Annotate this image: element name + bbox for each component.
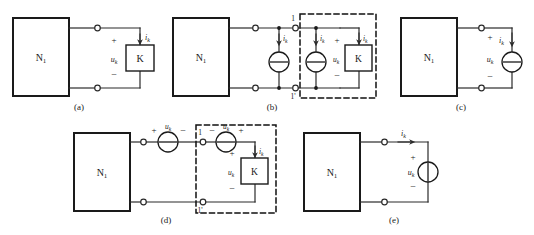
terminal-d-1: [200, 139, 206, 145]
panel-a: N1 K ik + − uk (a): [13, 18, 154, 112]
voltage-label-b: uk: [333, 55, 340, 65]
terminal-label-b-1prime: 1': [290, 92, 296, 101]
terminal-label-b-1: 1: [291, 14, 295, 23]
terminal-c-bottom: [479, 85, 485, 91]
current-label-c: ik: [499, 36, 504, 46]
current-label-d: ik: [259, 147, 264, 157]
terminal-e-top: [382, 139, 388, 145]
voltage-label-c: uk: [487, 55, 494, 65]
node-b-top-1: [277, 26, 281, 30]
polarity-plus-c2: +: [487, 32, 492, 42]
polarity-minus-b: −: [334, 70, 340, 81]
node-b-top-2: [314, 26, 318, 30]
voltage-label-d: uk: [228, 168, 235, 178]
terminal-d-top: [141, 139, 147, 145]
voltage-label-d2: uk: [223, 122, 230, 132]
node-b-bottom-2: [314, 86, 318, 90]
current-label-b-k: ik: [363, 34, 368, 44]
terminal-b-1: [293, 25, 299, 31]
circuit-figure: N1 K ik + − uk (a) N1: [0, 0, 534, 235]
terminal-a-bottom: [95, 85, 101, 91]
caption-c: (c): [456, 102, 466, 112]
caption-d: (d): [161, 215, 172, 225]
current-label-b1: ik: [283, 34, 288, 44]
polarity-minus-e: −: [410, 181, 416, 192]
terminal-b-top: [253, 25, 259, 31]
node-b-bottom-1: [277, 86, 281, 90]
element-label-k-a: K: [136, 53, 144, 64]
voltage-label-d1: uk: [165, 122, 172, 132]
polarity-minus-d1: −: [180, 125, 186, 136]
polarity-minus-d: −: [229, 183, 235, 194]
polarity-plus-e: +: [410, 152, 415, 162]
panel-e: N1 + − uk ik (e): [304, 129, 438, 225]
polarity-plus-b: +: [334, 35, 339, 45]
panel-b: N1 ik 1 1' ik: [173, 14, 376, 112]
current-label-e: ik: [401, 129, 406, 139]
panel-d: N1 uk + − 1 1' uk − + K: [74, 122, 276, 225]
voltage-label-a: uk: [111, 55, 118, 65]
terminal-b-1prime: [293, 85, 299, 91]
current-label-b2: ik: [320, 34, 325, 44]
figure-canvas: N1 K ik + − uk (a) N1: [0, 0, 534, 235]
network-sub-a: 1: [43, 57, 47, 65]
terminal-d-bottom: [141, 199, 147, 205]
terminal-b-bottom: [253, 85, 259, 91]
voltage-label-e: uk: [408, 168, 415, 178]
panel-c: N1 ik + + − uk (c): [401, 18, 522, 112]
polarity-minus-d2: −: [209, 125, 215, 136]
polarity-plus-d2: +: [238, 125, 243, 135]
polarity-minus-c: −: [487, 71, 493, 82]
current-label-a: ik: [145, 33, 150, 43]
polarity-plus-d: +: [229, 148, 234, 158]
polarity-plus-d1: +: [151, 125, 156, 135]
caption-e: (e): [389, 215, 399, 225]
caption-b: (b): [267, 102, 278, 112]
terminal-c-top: [479, 25, 485, 31]
caption-a: (a): [74, 102, 84, 112]
terminal-d-1prime: [200, 199, 206, 205]
element-label-k-b: K: [355, 54, 362, 64]
element-label-k-d: K: [251, 167, 258, 177]
terminal-e-bottom: [382, 199, 388, 205]
polarity-minus-a: −: [111, 69, 117, 80]
terminal-a-top: [95, 25, 101, 31]
terminal-label-d-1: 1: [198, 128, 202, 137]
polarity-plus-a: +: [111, 35, 116, 45]
